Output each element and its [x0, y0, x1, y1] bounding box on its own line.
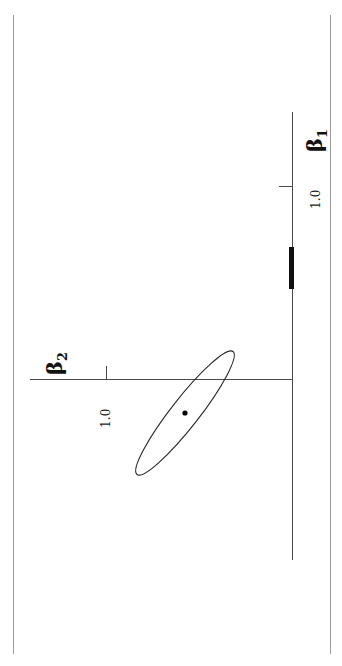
figure-page: β1 β2 1.0 1.0: [0, 0, 342, 666]
estimate-point-marker: [182, 410, 187, 415]
ellipse-layer: [0, 0, 342, 666]
confidence-region-plot: β1 β2 1.0 1.0: [0, 0, 342, 666]
